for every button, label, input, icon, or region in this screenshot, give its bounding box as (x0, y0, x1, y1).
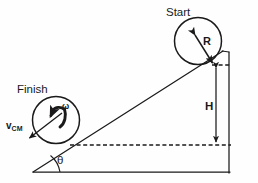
inclined-plane-diagram: Start Finish R H θ ω vCM (0, 0, 258, 183)
height-label: H (205, 101, 213, 113)
finish-circle (33, 97, 80, 144)
angular-velocity-arrow-icon (51, 110, 54, 117)
velocity-vector-arrow-icon (30, 113, 63, 138)
finish-label: Finish (17, 84, 48, 96)
angular-velocity-label: ω (62, 102, 69, 111)
velocity-cm-label: vCM (6, 121, 23, 131)
theta-angle-label: θ (57, 155, 63, 167)
velocity-cm-base: v (6, 120, 12, 131)
radius-label: R (203, 36, 211, 47)
incline-apex-connector (222, 51, 229, 52)
start-label: Start (166, 7, 190, 19)
velocity-cm-subscript: CM (12, 125, 23, 132)
angular-velocity-arc (60, 109, 65, 127)
